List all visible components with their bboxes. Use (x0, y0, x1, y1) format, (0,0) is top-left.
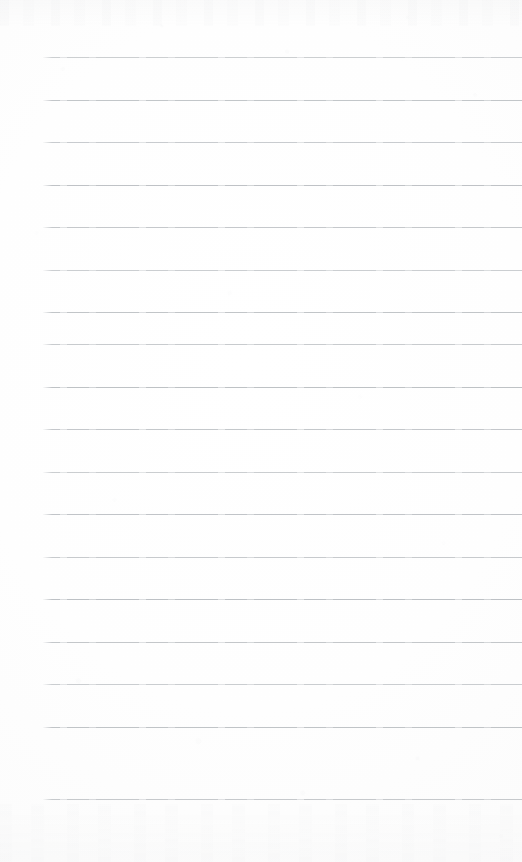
rule-line-start-fade (43, 799, 52, 800)
writing-area[interactable] (43, 57, 522, 799)
rule-line (43, 799, 522, 800)
notebook-page (0, 0, 522, 862)
